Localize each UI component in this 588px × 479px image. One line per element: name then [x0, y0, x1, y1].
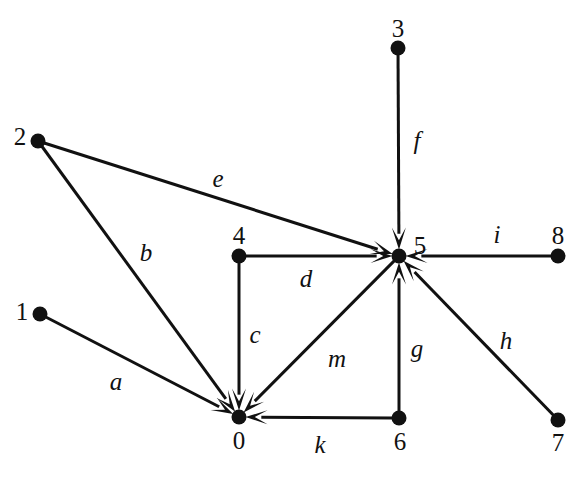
edge-label-f: f [414, 128, 421, 153]
node-3[interactable] [391, 41, 406, 56]
node-8[interactable] [551, 249, 566, 264]
node-label-0: 0 [233, 428, 246, 453]
edge-line-m [255, 261, 395, 402]
edge-g [392, 263, 406, 412]
edge-a [46, 317, 233, 414]
node-label-4: 4 [233, 223, 246, 248]
node-6[interactable] [392, 411, 407, 426]
edge-k [246, 410, 393, 424]
edge-line-e [44, 143, 378, 249]
directed-graph-figure: abcdefghikm012345678 [0, 0, 588, 479]
edge-c [232, 263, 246, 411]
edge-m [244, 261, 395, 413]
edge-label-k: k [314, 432, 325, 457]
edge-label-g: g [411, 336, 424, 361]
node-label-6: 6 [394, 429, 407, 454]
node-7[interactable] [551, 413, 566, 428]
edge-line-f [398, 55, 399, 234]
edge-line-h [415, 272, 554, 415]
edge-line-k [261, 417, 392, 418]
edge-b [42, 146, 235, 412]
node-1[interactable] [33, 307, 48, 322]
edge-h [404, 261, 554, 416]
node-4[interactable] [232, 249, 247, 264]
node-label-8: 8 [552, 223, 565, 248]
edge-label-c: c [249, 322, 260, 347]
edge-label-d: d [300, 266, 313, 291]
edge-label-m: m [328, 346, 346, 371]
edge-label-e: e [212, 166, 223, 191]
edge-label-h: h [500, 328, 513, 353]
node-label-1: 1 [16, 299, 29, 324]
edge-label-b: b [140, 240, 153, 265]
edge-i [406, 249, 552, 263]
node-label-2: 2 [14, 124, 27, 149]
node-2[interactable] [31, 134, 46, 149]
node-0[interactable] [232, 410, 247, 425]
node-5[interactable] [392, 249, 407, 264]
edge-e [44, 143, 393, 254]
edge-line-a [46, 317, 219, 407]
node-label-5: 5 [414, 233, 427, 258]
edge-label-a: a [110, 369, 123, 394]
edge-d [246, 249, 393, 263]
node-label-7: 7 [552, 430, 565, 455]
edge-f [392, 55, 406, 250]
node-label-3: 3 [392, 16, 405, 41]
edge-label-i: i [494, 222, 501, 247]
